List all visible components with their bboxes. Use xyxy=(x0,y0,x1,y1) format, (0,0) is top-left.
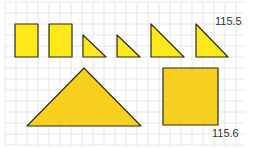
small-rectangle-1 xyxy=(15,24,38,57)
label-115-6: 115.6 xyxy=(212,128,239,139)
shapes-group xyxy=(15,24,228,126)
large-square xyxy=(163,68,218,125)
large-triangle xyxy=(27,68,141,126)
medium-triangle-1 xyxy=(151,24,184,57)
medium-triangle-2 xyxy=(196,24,228,57)
shapes-diagram: 115.5 115.6 xyxy=(0,0,255,149)
small-rectangle-2 xyxy=(49,24,72,57)
label-115-5: 115.5 xyxy=(215,16,242,27)
